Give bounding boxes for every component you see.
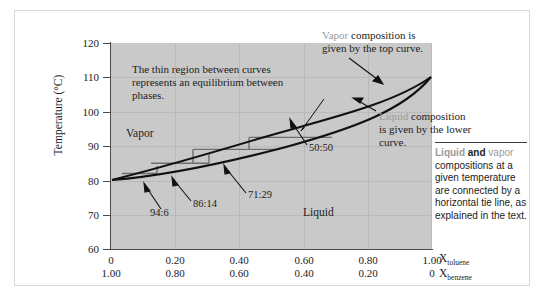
x-tick-toluene-020: 0.20 (151, 254, 199, 266)
y-tick-60 (103, 249, 110, 250)
annotation-liquid-line3: curve. (379, 136, 406, 148)
x-tick-benzene-040: 0.40 (280, 267, 328, 279)
y-tick-label-80: 80 (59, 176, 99, 187)
y-tick-label-110: 110 (59, 72, 99, 83)
x-axis-label-benzene: Xbenzene (439, 267, 472, 282)
y-tick-label-90: 90 (59, 141, 99, 152)
annotation-equilibrium-line2: represents an equilibrium between (132, 76, 283, 88)
figure-card: Vapor Liquid 120 110 100 90 80 70 60 Tem… (14, 10, 530, 286)
annotation-liquid-line1: composition (408, 110, 465, 122)
x-tick-toluene-060: 0.60 (280, 254, 328, 266)
sidebox-keyword-liquid: Liquid (435, 147, 465, 158)
x-tick-benzene-100: 1.00 (87, 267, 135, 279)
sidebox-body: compositions at a given temperature are … (435, 160, 527, 221)
sidebox-text: Liquid and vapor compositions at a given… (435, 147, 531, 223)
phase-diagram-figure: Vapor Liquid 120 110 100 90 80 70 60 Tem… (0, 0, 545, 297)
x-tick-benzene-060: 0.60 (215, 267, 263, 279)
sidebox-note: Liquid and vapor compositions at a given… (435, 142, 531, 223)
x-axis-line (110, 249, 433, 250)
x-axis-label-toluene: Xtoluene (439, 252, 469, 267)
x-tick-toluene-080: 0.80 (344, 254, 392, 266)
ratio-label-71-29: 71:29 (248, 189, 272, 200)
y-tick-120 (103, 43, 110, 44)
y-tick-70 (103, 215, 110, 216)
sidebox-keyword-vapor: vapor (488, 147, 513, 158)
y-tick-100 (103, 112, 110, 113)
annotation-vapor: Vapor composition is given by the top cu… (322, 29, 454, 55)
leader-arrows-group (301, 99, 324, 131)
annotation-equilibrium-line3: phases. (132, 89, 164, 101)
annotation-liquid-line2: is given by the lower (379, 123, 471, 135)
x-tick-toluene-0: 0 (87, 254, 135, 266)
annotation-vapor-keyword: Vapor (322, 29, 348, 41)
ratio-label-50-50: 50:50 (309, 142, 333, 153)
y-tick-110 (103, 77, 110, 78)
x-tick-benzene-080: 0.80 (151, 267, 199, 279)
y-axis-title: Temperature (°C) (52, 50, 64, 180)
region-label-liquid: Liquid (303, 206, 334, 218)
y-tick-label-100: 100 (59, 107, 99, 118)
annotation-vapor-line1: composition is (348, 29, 415, 41)
sidebox-divider (435, 142, 527, 143)
y-tick-label-120: 120 (59, 38, 99, 49)
ratio-label-94-6: 94:6 (150, 207, 169, 218)
ratio-label-86-14: 86:14 (193, 198, 217, 209)
sidebox-and: and (465, 147, 488, 158)
y-tick-90 (103, 146, 110, 147)
annotation-equilibrium: The thin region between curves represent… (132, 63, 322, 103)
x-axis-label-benzene-subscript: benzene (447, 273, 472, 282)
x-axis-label-toluene-subscript: toluene (447, 258, 469, 267)
x-tick-toluene-040: 0.40 (215, 254, 263, 266)
y-tick-label-70: 70 (59, 210, 99, 221)
y-axis-line (110, 42, 111, 250)
y-tick-80 (103, 181, 110, 182)
annotation-liquid-keyword: Liquid (379, 110, 408, 122)
x-tick-benzene-020: 0.20 (344, 267, 392, 279)
annotation-vapor-line2: given by the top curve. (322, 42, 423, 54)
region-label-vapor: Vapor (126, 127, 153, 139)
annotation-equilibrium-line1: The thin region between curves (132, 63, 271, 75)
